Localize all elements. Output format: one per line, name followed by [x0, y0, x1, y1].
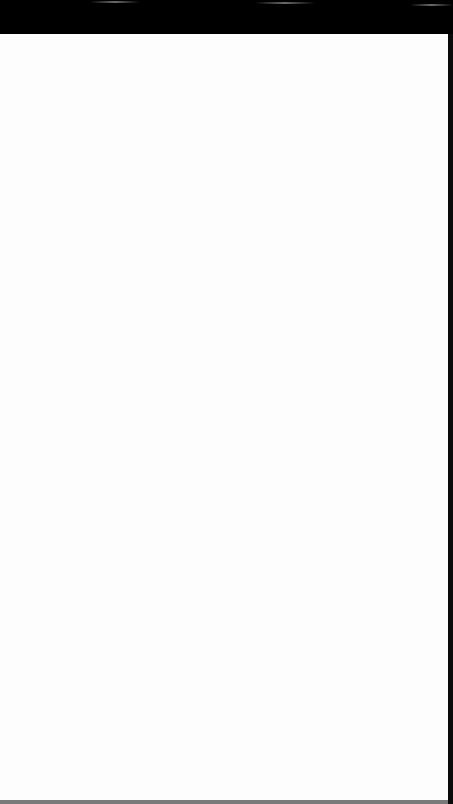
- status-bar-glint: [410, 4, 453, 6]
- right-screen-edge: [448, 34, 453, 804]
- status-bar: [0, 0, 453, 34]
- bottom-screen-edge: [0, 800, 448, 804]
- device-screen: [0, 0, 453, 804]
- status-bar-glint: [90, 1, 140, 3]
- status-bar-glint: [255, 2, 315, 4]
- blank-content-area: [0, 34, 448, 800]
